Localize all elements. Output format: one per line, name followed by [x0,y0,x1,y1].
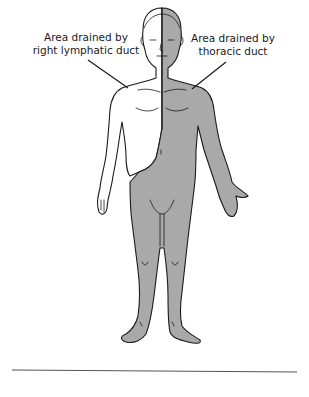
label-line: Area drained by [22,31,150,44]
label-line: Area drained by [178,32,288,45]
label-right-lymphatic-duct: Area drained by right lymphatic duct [22,31,150,57]
thoracic-region [122,8,249,343]
label-thoracic-duct: Area drained by thoracic duct [178,32,288,58]
label-line: right lymphatic duct [22,44,150,57]
horizontal-rule [12,370,297,372]
leader-line-thoracic [192,62,226,89]
lymphatic-drainage-figure [0,0,309,397]
leader-line-right-lymphatic [88,60,128,88]
label-line: thoracic duct [178,45,288,58]
